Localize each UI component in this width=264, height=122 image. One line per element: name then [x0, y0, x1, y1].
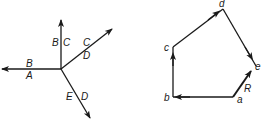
label-up-right: C — [63, 37, 71, 48]
diagram-canvas: B C C D B A E D d c b a e R — [0, 0, 264, 122]
label-up-left: B — [52, 37, 59, 48]
edge-d-e-arrow — [245, 47, 251, 57]
label-left-top: B — [26, 58, 33, 69]
vertex-e: e — [255, 61, 261, 72]
vertex-a: a — [237, 94, 243, 105]
edge-c-d-arrow — [208, 13, 217, 20]
resultant-label: R — [244, 83, 251, 94]
force-arrow-upper-right — [61, 29, 112, 69]
label-ur-top: C — [83, 37, 91, 48]
force-diagram — [2, 20, 112, 118]
label-dr-right: D — [81, 91, 88, 102]
vertex-c: c — [164, 42, 169, 53]
label-left-bottom: A — [25, 70, 33, 81]
label-dr-left: E — [66, 91, 73, 102]
edge-d-e — [223, 9, 256, 66]
vertex-b: b — [164, 92, 170, 103]
vertex-d: d — [219, 0, 225, 9]
label-ur-bottom: D — [83, 50, 90, 61]
